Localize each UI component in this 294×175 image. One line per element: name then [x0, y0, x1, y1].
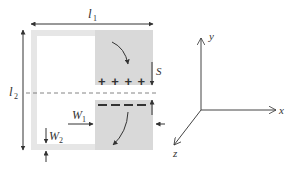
l2-label: l	[9, 84, 13, 99]
x-axis-label: x	[278, 104, 284, 116]
l2-dimension: l 2	[9, 30, 23, 150]
svg-text:1: 1	[82, 115, 86, 124]
svg-text:2: 2	[59, 136, 63, 145]
svg-text:1: 1	[93, 14, 97, 23]
z-axis-label: z	[172, 147, 178, 159]
s-gap-dimension: S	[152, 62, 162, 115]
y-axis-label: y	[208, 30, 214, 42]
svg-text:2: 2	[14, 92, 18, 101]
coordinate-axes: y x z	[172, 30, 284, 159]
resonator-diagram: l 1 l 2 + + + + S W 1 W 2	[0, 0, 294, 175]
l1-label: l	[88, 6, 92, 21]
s-label: S	[156, 65, 162, 77]
z-axis	[174, 110, 201, 145]
lower-patch	[95, 100, 153, 150]
l1-dimension: l 1	[31, 6, 153, 24]
positive-charges: + + + +	[98, 74, 146, 89]
